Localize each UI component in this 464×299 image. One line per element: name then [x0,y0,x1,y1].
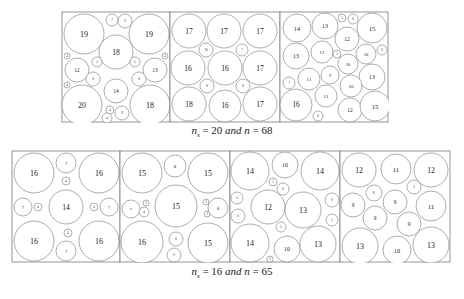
packed-circle: 6 [366,185,382,201]
packed-circle: 6 [348,14,358,24]
packed-circle: 6 [377,45,387,55]
circle-label: 13 [299,206,307,215]
packed-circle: 4 [102,113,112,123]
circle-label: 10 [282,162,288,168]
packed-circle: 15 [155,185,197,227]
circle-label: 12 [74,67,80,73]
packed-circle: 4 [64,53,70,59]
circle-label: 16 [221,64,229,73]
circle-label: 13 [152,67,158,73]
circle-label: 9 [408,221,411,227]
circle-label: 9 [352,202,355,208]
packed-circle: 15 [360,91,389,121]
packed-circle: 13 [312,13,338,39]
packed-circle: 6 [231,209,245,223]
circle-label: 10 [284,246,290,252]
circle-label: 13 [322,23,328,29]
packed-circle: 4 [62,177,70,185]
packed-circle: 6 [277,183,289,195]
packed-circle: 14 [301,152,339,190]
circle-label: 13 [293,53,299,59]
circle-label: 14 [316,167,324,176]
circle-label: 15 [172,202,180,211]
bottom-row-packing-panel-4: 12111265991199131013 [339,150,451,263]
packed-circle: 12 [65,58,89,82]
caption-ns-value: = 16 [200,265,225,277]
packed-circle: 18 [130,85,170,123]
circle-label: 17 [185,27,193,36]
circle-label: 15 [369,25,376,32]
packed-circle: 8 [200,79,214,93]
packed-circle: 10 [340,75,362,97]
circle-label: 16 [30,169,38,178]
packed-circle: 3 [143,200,149,206]
packed-circle: 16 [280,89,312,121]
caption-n-symbol: n [242,124,250,136]
caption-bottom: ns = 16 and n = 65 [0,265,464,280]
packed-circle: 17 [243,51,277,85]
circle-label: 18 [146,101,154,110]
packed-circle: 17 [243,87,277,121]
packed-circle: 20 [62,85,102,123]
packed-circle: 11 [315,85,337,107]
packed-circle: 13 [143,58,167,82]
circle-label: 15 [138,169,146,178]
packed-circle: 18 [172,87,206,121]
circle-label: 10 [204,48,208,52]
packed-circle: 7 [283,77,295,89]
circle-label: 13 [356,242,364,251]
packed-circle: 14 [231,152,269,190]
circle-label: 11 [324,94,329,99]
packed-circle: 16 [14,153,54,193]
circle-label: 14 [294,25,301,32]
packed-circle: 5 [231,192,243,204]
packed-circle: 10 [383,236,411,263]
caption-n-value: = 68 [250,124,273,136]
caption-n-value: = 65 [250,265,273,277]
packed-circle: 7 [14,198,32,216]
circle-label: 12 [427,166,435,175]
packed-circle: 8 [208,198,228,218]
circle-label: 7 [22,205,24,210]
circle-label: 12 [355,166,363,175]
packed-circle: 6 [167,248,181,262]
packed-circle: 9 [397,212,421,236]
circle-label: 16 [184,64,192,73]
circle-label: 17 [256,64,264,73]
circle-label: 11 [320,50,325,55]
circle-label: 14 [113,88,119,94]
circle-label: 15 [204,169,212,178]
packed-circle: 4 [90,203,98,211]
packed-circle: 16 [209,90,241,122]
packed-circle: 13 [413,227,449,263]
packed-circle: 10 [356,44,376,64]
top-row-packing-panel-1: 1979191812551388142018449444 [61,11,171,123]
packed-circle: 13 [300,226,336,262]
packed-circle: 6 [169,232,183,246]
circle-label: 9 [394,199,397,205]
caption-n-symbol: n [242,265,250,277]
circle-label: 14 [246,167,254,176]
packed-circle: 4 [139,207,149,217]
packed-circle: 4 [64,229,72,237]
packed-circle: 8 [132,72,146,86]
top-row-packing-panel-2: 17171710716161788181617 [169,11,281,123]
circle-label: 16 [292,101,300,109]
packed-circle: 14 [104,79,128,103]
packed-circle: 11 [416,191,446,221]
packed-circle: 11 [381,154,411,184]
circle-label: 18 [185,100,193,109]
packed-circle: 18 [99,35,133,69]
packed-circle: 6 [325,193,339,207]
packed-circle: 16 [79,221,119,261]
packed-circle: 9 [118,14,132,28]
packed-circle: 11 [311,41,333,63]
packed-circle: 11 [298,68,320,90]
circle-label: 13 [369,74,375,80]
packed-circle: 13 [359,64,385,90]
circle-label: 13 [314,240,322,249]
circle-label: 20 [78,101,86,110]
packed-circle: 8 [164,155,186,177]
circle-label: 17 [220,27,228,36]
packed-circle: 13 [283,43,309,69]
